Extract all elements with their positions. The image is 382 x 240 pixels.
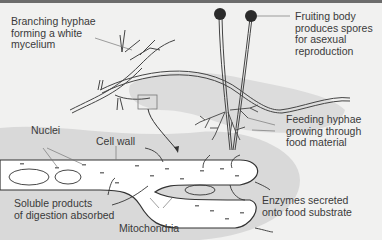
sporangium-2 bbox=[245, 10, 257, 22]
label-feeding-hyphae: Feeding hyphae growing through food mate… bbox=[286, 114, 361, 149]
label-fruiting-body: Fruiting body produces spores for asexua… bbox=[295, 11, 373, 57]
label-soluble-products: Soluble products of digestion absorbed bbox=[14, 198, 114, 221]
sporangium-1 bbox=[214, 8, 226, 20]
label-mitochondria: Mitochondria bbox=[119, 223, 179, 235]
label-enzymes: Enzymes secreted onto food substrate bbox=[262, 195, 352, 218]
label-cell-wall: Cell wall bbox=[96, 136, 135, 148]
label-nuclei: Nuclei bbox=[31, 125, 60, 137]
label-branching-hyphae: Branching hyphae forming a white myceliu… bbox=[11, 16, 96, 51]
